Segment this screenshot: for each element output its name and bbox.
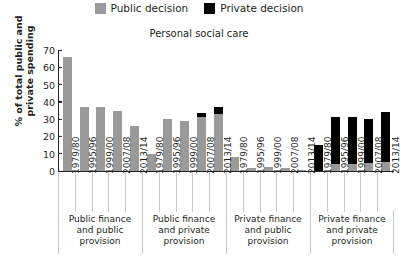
x-axis-tick: 1979/80 (142, 172, 159, 212)
y-axis-tick-label: 60 (43, 62, 59, 73)
group-caption-line: and public (61, 225, 139, 236)
x-axis-tick: 1995/96 (327, 172, 344, 212)
x-axis-separator (58, 172, 59, 212)
x-axis-tick: 2007/08 (276, 172, 293, 212)
x-axis-separator (344, 172, 345, 212)
x-axis-separator (310, 172, 311, 212)
x-axis-separator (276, 172, 277, 212)
x-axis-labels: 1979/801995/961999/002007/082013/141979/… (58, 172, 394, 212)
x-axis-tick: 1979/80 (310, 172, 327, 212)
x-axis-tick-label: 2013/14 (307, 137, 317, 174)
square-swatch-icon (204, 3, 215, 14)
x-axis-tick: 2007/08 (108, 172, 125, 212)
x-axis-tick: 2013/14 (293, 172, 310, 212)
legend-label: Private decision (220, 3, 303, 14)
x-axis-separator (260, 172, 261, 212)
x-axis-tick-label: 1999/00 (189, 137, 199, 174)
x-axis-tick-label: 2013/14 (139, 137, 149, 174)
square-swatch-icon (95, 3, 106, 14)
x-axis-tick: 1999/00 (176, 172, 193, 212)
group-caption: Private financeand publicprovision (226, 212, 310, 260)
x-axis-separator (192, 172, 193, 212)
group-caption-line: provision (61, 236, 139, 247)
x-axis-separator (327, 172, 328, 212)
group-caption-line: Public finance (145, 214, 223, 225)
x-axis-tick-label: 2007/08 (206, 137, 216, 174)
x-axis-tick-label: 1995/96 (256, 137, 266, 174)
x-axis-tick-label: 1995/96 (88, 137, 98, 174)
x-axis-tick: 1999/00 (92, 172, 109, 212)
group-caption-line: provision (313, 236, 391, 247)
x-axis-tick-label: 1999/00 (273, 137, 283, 174)
legend-label: Public decision (111, 3, 189, 14)
x-axis-tick: 2013/14 (377, 172, 394, 212)
x-axis-tick: 1999/00 (260, 172, 277, 212)
group-caption-line: provision (229, 236, 307, 247)
group-caption-line: Private finance (313, 214, 391, 225)
x-axis-separator (92, 172, 93, 212)
x-axis-group: 1979/801995/961999/002007/082013/14 (226, 172, 310, 212)
x-axis-tick-label: 1979/80 (239, 137, 249, 174)
x-axis-separator (243, 172, 244, 212)
x-axis-separator (159, 172, 160, 212)
x-axis-separator (75, 172, 76, 212)
chart-title: Personal social care (0, 28, 398, 39)
x-axis-tick-label: 1999/00 (357, 137, 367, 174)
y-axis-title: % of total public and private spending (13, 4, 35, 139)
x-axis-tick: 2013/14 (125, 172, 142, 212)
legend-item: Private decision (204, 3, 303, 14)
caption-divider (226, 210, 227, 254)
group-caption-line: and private (313, 225, 391, 236)
x-axis-tick-label: 2007/08 (290, 137, 300, 174)
x-axis-tick-label: 1995/96 (172, 137, 182, 174)
x-axis-separator (176, 172, 177, 212)
group-caption-line: Private finance (229, 214, 307, 225)
bar-segment-private-decision (214, 107, 223, 114)
x-axis-tick: 2007/08 (360, 172, 377, 212)
chart-legend: Public decisionPrivate decision (0, 3, 398, 14)
x-axis-tick-label: 2013/14 (223, 137, 233, 174)
x-axis-tick-label: 2007/08 (122, 137, 132, 174)
x-axis-separator (108, 172, 109, 212)
caption-divider (142, 210, 143, 254)
x-axis-tick: 1995/96 (243, 172, 260, 212)
x-axis-group: 1979/801995/961999/002007/082013/14 (58, 172, 142, 212)
x-axis-tick: 1999/00 (344, 172, 361, 212)
y-axis-tick-label: 70 (43, 45, 59, 56)
group-caption: Private financeand privateprovision (310, 212, 394, 260)
x-axis-separator (293, 172, 294, 212)
x-axis-separator (125, 172, 126, 212)
x-axis-separator (377, 172, 378, 212)
group-caption-line: Public finance (61, 214, 139, 225)
x-axis-tick-label: 1999/00 (105, 137, 115, 174)
legend-item: Public decision (95, 3, 189, 14)
x-axis-tick-label: 1995/96 (340, 137, 350, 174)
x-axis-group: 1979/801995/961999/002007/082013/14 (310, 172, 394, 212)
x-axis-separator (226, 172, 227, 212)
x-axis-tick-label: 2013/14 (391, 137, 401, 174)
x-axis-tick-label: 1979/80 (71, 137, 81, 174)
x-axis-group: 1979/801995/961999/002007/082013/14 (142, 172, 226, 212)
x-axis-separator (360, 172, 361, 212)
y-axis-tick-label: 50 (43, 79, 59, 90)
x-axis-separator (142, 172, 143, 212)
y-axis-tick-label: 20 (43, 131, 59, 142)
x-axis-tick: 2013/14 (209, 172, 226, 212)
caption-divider (310, 210, 311, 254)
x-axis-tick: 1995/96 (159, 172, 176, 212)
group-caption: Public financeand privateprovision (142, 212, 226, 260)
group-caption-line: provision (145, 236, 223, 247)
x-axis-tick: 1979/80 (226, 172, 243, 212)
x-axis-separator (209, 172, 210, 212)
x-axis-tick: 1979/80 (58, 172, 75, 212)
caption-divider (393, 210, 394, 254)
y-axis-tick-label: 10 (43, 148, 59, 159)
x-axis-tick-label: 1979/80 (155, 137, 165, 174)
caption-divider (58, 210, 59, 254)
y-axis-tick-label: 30 (43, 114, 59, 125)
x-axis-tick: 2007/08 (192, 172, 209, 212)
x-axis-tick-label: 2007/08 (374, 137, 384, 174)
x-axis-tick: 1995/96 (75, 172, 92, 212)
group-caption-line: and private (145, 225, 223, 236)
